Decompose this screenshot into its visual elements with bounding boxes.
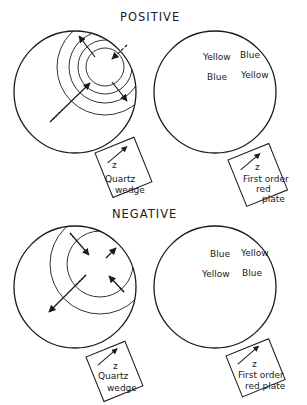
plate-axis-label: z	[113, 361, 118, 371]
plate-axis-label: z	[112, 160, 117, 170]
quadrant-upper-left-label: Blue	[210, 249, 230, 259]
quadrant-upper-right-label: Yellow	[240, 248, 269, 258]
plate-label-line-2: wedge	[115, 185, 145, 195]
interference-figure-diagram: z Quartz wedge Yellow Blue Blue Yellow z…	[0, 0, 307, 405]
positive-red-plate-figure: Yellow Blue Blue Yellow z First order re…	[154, 30, 289, 206]
retardation-arrows	[50, 36, 127, 122]
field-of-view-circle	[154, 226, 276, 348]
isogyre-cross	[14, 19, 153, 155]
plate-axis-label: z	[255, 162, 260, 172]
plate-label-line-1: Quartz	[105, 174, 136, 184]
plate-label-line-3: plate	[262, 194, 285, 204]
plate-label-line-2: red plate	[245, 381, 286, 391]
plate-label-line-2: wedge	[107, 383, 137, 393]
plate-axis-label: z	[252, 359, 257, 369]
quadrant-lower-right-label: Yellow	[240, 70, 269, 80]
field-of-view-circle	[14, 31, 136, 153]
quadrant-upper-right-label: Blue	[240, 50, 260, 60]
quadrant-upper-left-label: Yellow	[202, 52, 231, 62]
positive-quartz-wedge-figure: z Quartz wedge	[14, 19, 153, 198]
field-of-view-circle	[14, 226, 136, 348]
retardation-arrows	[49, 233, 124, 312]
negative-red-plate-figure: Blue Yellow Yellow Blue z First order re…	[154, 224, 286, 397]
plate-label-line-2: red	[256, 184, 271, 194]
plate-label-line-1: First order	[243, 174, 289, 184]
negative-quartz-wedge-figure: z Quartz wedge	[14, 214, 150, 402]
quadrant-lower-right-label: Blue	[242, 268, 262, 278]
plate-label-line-1: Quartz	[98, 371, 129, 381]
isogyre-cross	[14, 214, 150, 350]
quadrant-lower-left-label: Blue	[207, 72, 227, 82]
quadrant-lower-left-label: Yellow	[201, 269, 230, 279]
plate-label-line-1: First order	[238, 370, 284, 380]
